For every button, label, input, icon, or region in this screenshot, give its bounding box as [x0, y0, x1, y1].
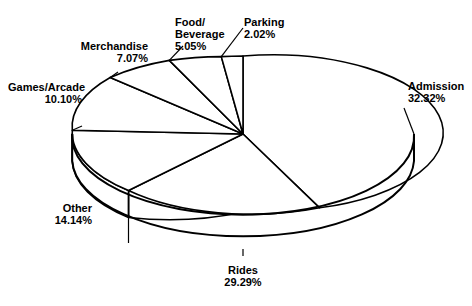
label-parking: Parking 2.02% [244, 16, 304, 40]
label-rides: Rides 29.29% [213, 264, 273, 288]
label-food-beverage-pct: 5.05% [175, 40, 237, 52]
label-food-beverage: Food/ Beverage 5.05% [175, 16, 237, 52]
label-other-name: Other [63, 202, 92, 214]
label-admission-name: Admission [408, 80, 464, 92]
label-parking-name: Parking [244, 16, 284, 28]
label-merchandise: Merchandise 7.07% [80, 40, 148, 64]
label-merchandise-name: Merchandise [81, 40, 148, 52]
label-games-arcade: Games/Arcade 10.10% [8, 81, 82, 105]
label-admission-pct: 32.32% [408, 92, 472, 104]
label-food-beverage-name1: Food/ [175, 16, 205, 28]
label-games-arcade-name: Games/Arcade [8, 81, 85, 93]
label-other: Other 14.14% [30, 202, 92, 226]
label-merchandise-pct: 7.07% [80, 52, 148, 64]
label-parking-pct: 2.02% [244, 28, 304, 40]
label-games-arcade-pct: 10.10% [8, 93, 82, 105]
label-rides-pct: 29.29% [213, 276, 273, 288]
label-food-beverage-name2: Beverage [175, 28, 237, 40]
label-other-pct: 14.14% [30, 214, 92, 226]
label-rides-name: Rides [228, 264, 258, 276]
label-admission: Admission 32.32% [408, 80, 472, 104]
